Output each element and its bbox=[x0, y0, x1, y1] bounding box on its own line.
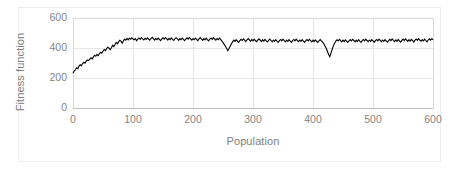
x-tick-label: 0 bbox=[53, 113, 93, 125]
x-tick-label: 400 bbox=[293, 113, 333, 125]
x-tick-label: 100 bbox=[113, 113, 153, 125]
chart-plot-svg bbox=[0, 0, 459, 179]
x-tick-label: 600 bbox=[413, 113, 453, 125]
y-tick-label: 0 bbox=[37, 101, 67, 113]
y-tick-label: 600 bbox=[37, 11, 67, 23]
x-tick-label: 300 bbox=[233, 113, 273, 125]
x-tick-label: 200 bbox=[173, 113, 213, 125]
gridlines bbox=[73, 18, 433, 108]
y-tick-label: 200 bbox=[37, 71, 67, 83]
chart-figure: Fitness function Population 0200400600 0… bbox=[0, 0, 459, 179]
x-tick-label: 500 bbox=[353, 113, 393, 125]
x-axis-title: Population bbox=[73, 135, 433, 147]
y-tick-label: 400 bbox=[37, 41, 67, 53]
y-axis-title: Fitness function bbox=[14, 24, 26, 120]
